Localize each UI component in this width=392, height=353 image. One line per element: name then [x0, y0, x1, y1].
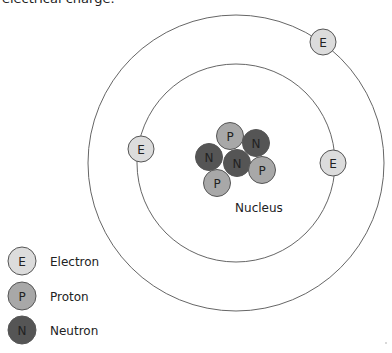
- electron: E: [310, 29, 336, 55]
- neutron: N: [196, 144, 223, 171]
- nucleus-label: Nucleus: [235, 201, 283, 215]
- proton: P: [249, 157, 276, 184]
- legend-neutron-swatch: N: [8, 316, 36, 344]
- neutron-symbol: N: [205, 151, 214, 165]
- proton-symbol: P: [213, 177, 220, 191]
- proton-symbol: P: [226, 130, 233, 144]
- neutron-symbol: N: [18, 324, 27, 338]
- electron: E: [128, 136, 154, 162]
- legend-electron-swatch: E: [8, 247, 36, 275]
- neutron-symbol: N: [252, 137, 261, 151]
- electron: E: [320, 150, 346, 176]
- neutron: N: [224, 150, 251, 177]
- proton: P: [217, 123, 244, 150]
- proton: P: [204, 170, 231, 197]
- stray-dot: [385, 342, 387, 344]
- atom-diagram: EEE NPNNPP Nucleus EElectronPProtonNNeut…: [0, 0, 392, 353]
- neutron-symbol: N: [233, 157, 242, 171]
- legend-electron-label: Electron: [50, 255, 99, 269]
- proton-symbol: P: [258, 164, 265, 178]
- proton-symbol: P: [18, 290, 25, 304]
- legend-proton-label: Proton: [50, 290, 89, 304]
- neutron: N: [243, 130, 270, 157]
- legend-neutron-label: Neutron: [50, 324, 98, 338]
- electron-symbol: E: [319, 36, 327, 50]
- electron-symbol: E: [137, 143, 145, 157]
- legend-proton-swatch: P: [8, 282, 36, 310]
- electron-symbol: E: [329, 157, 337, 171]
- electron-symbol: E: [18, 255, 26, 269]
